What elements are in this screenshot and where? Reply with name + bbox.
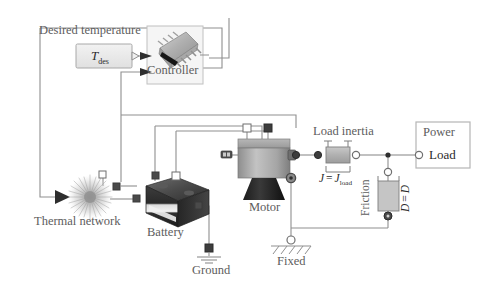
friction-lhs: D [399, 204, 411, 212]
load-label: Load [429, 148, 456, 161]
load-inertia-block[interactable] [314, 141, 359, 172]
desired-temperature-label: Desired temperature [39, 24, 141, 37]
diagram-vector-layer [0, 0, 479, 285]
t-des-subscript: des [98, 57, 109, 66]
friction-body [378, 181, 399, 211]
inertia-rhs-subscript: load [340, 179, 352, 187]
battery-label: Battery [147, 226, 184, 239]
wire-controller-out-bus [209, 18, 229, 58]
battery-port-top-left [152, 172, 159, 179]
motor-mech-port-right [292, 151, 299, 158]
fixed-port [287, 236, 295, 244]
fixed-hatching [273, 246, 311, 254]
t-des-symbol-label: Tdes [91, 49, 109, 66]
motor-label: Motor [249, 201, 280, 214]
inertia-body [326, 147, 350, 163]
motor-port-filled [264, 124, 272, 132]
thermal-network-label: Thermal network [34, 215, 120, 228]
fixed-label: Fixed [277, 255, 305, 268]
friction-block[interactable] [378, 168, 399, 220]
load-inertia-label: Load inertia [313, 125, 374, 138]
ground-port [205, 244, 213, 252]
thermal-network-block[interactable] [55, 171, 137, 219]
friction-rhs: D [399, 185, 411, 193]
t-des-output-port [132, 52, 139, 60]
power-load-port [415, 151, 422, 158]
inertia-lhs: J [319, 172, 324, 184]
power-label: Power [423, 126, 455, 139]
inertia-port-right [352, 151, 359, 158]
battery-port-top-right [172, 172, 180, 180]
ground-symbol[interactable] [197, 244, 221, 263]
friction-port-top [384, 168, 391, 175]
controller-label: Controller [147, 64, 198, 77]
battery-port-bottom [195, 202, 202, 209]
friction-label: Friction [360, 180, 372, 216]
inertia-eq: = [326, 172, 333, 184]
battery-port-left [133, 195, 140, 202]
shaft-junction-node [385, 152, 390, 157]
friction-eq: = [399, 195, 411, 202]
block-diagram-canvas: Desired temperature Tdes Controller Ther… [0, 0, 479, 285]
thermal-port-hollow [99, 171, 106, 178]
wire-sensor-to-controller [121, 72, 148, 182]
motor-block[interactable] [221, 124, 300, 200]
motor-electrical-terminal [221, 151, 232, 158]
wire-feedback-left [40, 28, 66, 197]
inertia-equation: J=Jload [319, 173, 352, 187]
ground-label: Ground [192, 264, 230, 277]
fixed-symbol[interactable] [271, 236, 311, 254]
friction-equation: D=D [400, 185, 412, 212]
thermal-port-filled [113, 183, 120, 190]
thermal-burst-core [84, 191, 96, 203]
inertia-port-left [314, 151, 321, 158]
motor-port-hollow [243, 124, 251, 132]
battery-block[interactable] [133, 172, 209, 227]
